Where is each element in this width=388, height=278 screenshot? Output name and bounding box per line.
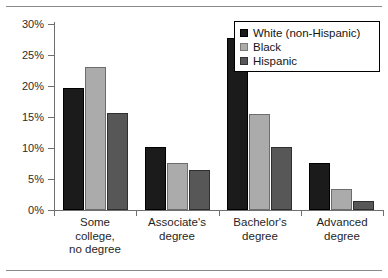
y-tick-label: 20% bbox=[22, 81, 44, 92]
legend-swatch-icon bbox=[240, 57, 248, 65]
bar bbox=[309, 163, 330, 210]
x-axis-category-label: Bachelor'sdegree bbox=[219, 216, 301, 243]
legend-swatch-icon bbox=[240, 43, 248, 51]
x-axis-category-label-line: no degree bbox=[54, 243, 136, 257]
legend-item-label: White (non-Hispanic) bbox=[253, 27, 360, 39]
x-axis-category-label: Somecollege,no degree bbox=[54, 216, 136, 257]
bar bbox=[107, 113, 128, 210]
top-divider-rule bbox=[6, 6, 382, 7]
x-axis-category-label-line: degree bbox=[136, 230, 218, 244]
x-axis-category-label-line: Associate's bbox=[136, 216, 218, 230]
bar bbox=[331, 189, 352, 210]
x-axis-category-label-line: Some bbox=[54, 216, 136, 230]
x-axis-line bbox=[48, 210, 384, 211]
bar bbox=[167, 163, 188, 210]
chart-figure: 0%5%10%15%20%25%30% Somecollege,no degre… bbox=[0, 0, 388, 278]
bottom-divider-rule bbox=[6, 270, 382, 271]
x-axis-category-label: Associate'sdegree bbox=[136, 216, 218, 243]
legend-item: Black bbox=[240, 40, 374, 53]
y-tick-label: 0% bbox=[28, 205, 44, 216]
x-axis-category-label-line: degree bbox=[219, 230, 301, 244]
bar bbox=[353, 201, 374, 210]
y-tick-label: 10% bbox=[22, 143, 44, 154]
x-axis-category-label-line: Bachelor's bbox=[219, 216, 301, 230]
bar bbox=[85, 67, 106, 210]
y-tick-label: 15% bbox=[22, 112, 44, 123]
legend-item-label: Black bbox=[253, 41, 281, 53]
x-tick-mark bbox=[383, 210, 384, 216]
x-axis-category-label-line: Advanced bbox=[301, 216, 383, 230]
bar bbox=[145, 147, 166, 210]
legend-item: White (non-Hispanic) bbox=[240, 26, 374, 39]
y-tick-label: 30% bbox=[22, 19, 44, 30]
chart-legend: White (non-Hispanic)BlackHispanic bbox=[234, 21, 380, 72]
legend-swatch-icon bbox=[240, 29, 248, 37]
bar bbox=[189, 170, 210, 210]
bar bbox=[271, 147, 292, 210]
x-axis-category-label-line: degree bbox=[301, 230, 383, 244]
y-tick-label: 25% bbox=[22, 50, 44, 61]
legend-item: Hispanic bbox=[240, 54, 374, 67]
x-axis-category-label: Advanceddegree bbox=[301, 216, 383, 243]
x-axis-category-label-line: college, bbox=[54, 230, 136, 244]
bar bbox=[63, 88, 84, 210]
bar bbox=[249, 114, 270, 210]
y-tick-label: 5% bbox=[28, 174, 44, 185]
legend-item-label: Hispanic bbox=[253, 55, 297, 67]
